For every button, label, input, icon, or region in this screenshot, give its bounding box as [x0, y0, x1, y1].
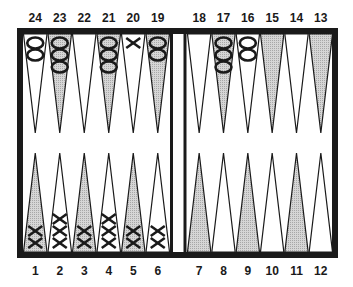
point-label: 24	[29, 11, 43, 25]
point-label: 19	[151, 11, 165, 25]
point-label: 7	[196, 264, 203, 278]
point-label: 14	[290, 11, 304, 25]
point-label: 16	[241, 11, 255, 25]
point-label: 13	[314, 11, 328, 25]
point-label: 21	[102, 11, 116, 25]
point-label: 10	[266, 264, 280, 278]
point-label: 4	[105, 264, 112, 278]
point-label: 6	[154, 264, 161, 278]
point-label: 17	[217, 11, 231, 25]
bottom-point-labels: 123456789101112	[32, 264, 328, 278]
point-label: 11	[290, 264, 303, 278]
point-label: 20	[127, 11, 141, 25]
point-label: 22	[78, 11, 92, 25]
top-point-labels: 242322212019181716151413	[29, 11, 328, 25]
point-label: 2	[56, 264, 63, 278]
point-label: 1	[32, 264, 39, 278]
backgammon-board: 242322212019181716151413 123456789101112	[0, 0, 353, 287]
point-label: 5	[130, 264, 137, 278]
point-label: 3	[81, 264, 88, 278]
point-label: 18	[193, 11, 207, 25]
point-label: 15	[266, 11, 280, 25]
point-label: 12	[314, 264, 328, 278]
point-label: 23	[53, 11, 67, 25]
point-label: 8	[220, 264, 227, 278]
point-label: 9	[244, 264, 251, 278]
